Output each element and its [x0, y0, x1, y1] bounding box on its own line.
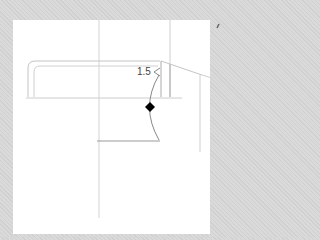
diamond-marker-icon	[145, 102, 155, 112]
cad-drawing	[0, 0, 227, 237]
slope-line	[202, 75, 212, 78]
dimension-label: 1.5	[137, 66, 151, 77]
dimension-arrow-icon	[154, 68, 160, 76]
mark	[217, 24, 219, 28]
slope-line	[161, 61, 202, 75]
